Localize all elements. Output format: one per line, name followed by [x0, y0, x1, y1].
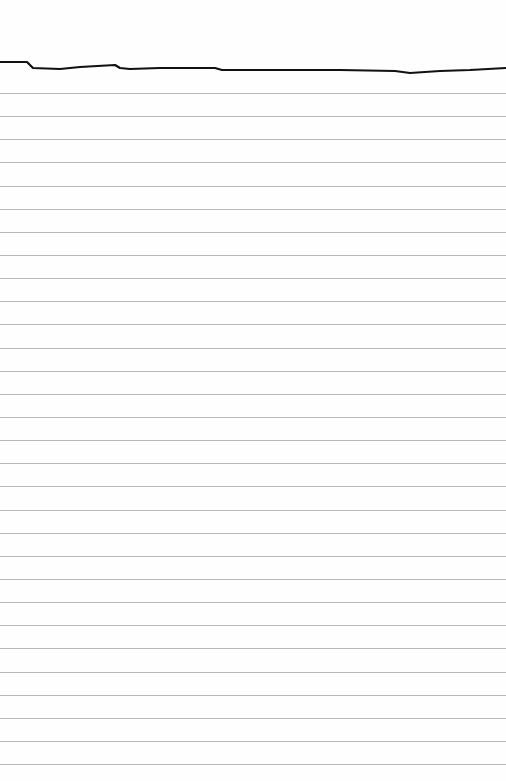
ruled-line	[0, 672, 506, 673]
ruled-line	[0, 533, 506, 534]
ruled-line	[0, 324, 506, 325]
ruled-line	[0, 394, 506, 395]
ruled-line	[0, 486, 506, 487]
ruled-line	[0, 648, 506, 649]
ruled-line	[0, 764, 506, 765]
ruled-line	[0, 278, 506, 279]
ruled-line	[0, 93, 506, 94]
ruled-line	[0, 371, 506, 372]
ruled-line	[0, 232, 506, 233]
ruled-line	[0, 463, 506, 464]
ruled-line	[0, 440, 506, 441]
ruled-line	[0, 695, 506, 696]
ruled-line	[0, 556, 506, 557]
ruled-line	[0, 186, 506, 187]
ruled-line	[0, 301, 506, 302]
ruled-line	[0, 162, 506, 163]
ruled-line	[0, 417, 506, 418]
ruled-line	[0, 255, 506, 256]
hand-drawn-line	[0, 0, 506, 781]
lined-paper-page	[0, 0, 506, 781]
ruled-line	[0, 579, 506, 580]
ruled-line	[0, 209, 506, 210]
ruled-line	[0, 625, 506, 626]
ruled-line	[0, 718, 506, 719]
ruled-line	[0, 348, 506, 349]
ruled-line	[0, 602, 506, 603]
ruled-line	[0, 139, 506, 140]
ruled-line	[0, 116, 506, 117]
ruled-line	[0, 741, 506, 742]
pen-stroke-path	[0, 62, 506, 73]
ruled-line	[0, 510, 506, 511]
